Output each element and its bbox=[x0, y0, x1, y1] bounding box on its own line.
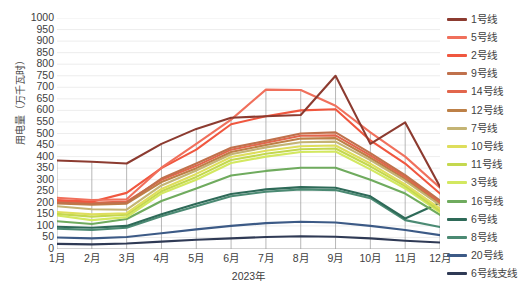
legend-color-swatch bbox=[447, 181, 467, 184]
y-tick-label: 250 bbox=[18, 185, 54, 196]
legend-item-label: 6号线支线 bbox=[471, 268, 517, 279]
legend-item[interactable]: 2号线 bbox=[447, 46, 497, 64]
y-tick-label: 750 bbox=[18, 70, 54, 81]
legend-color-swatch bbox=[447, 109, 467, 112]
y-tick-label: 550 bbox=[18, 116, 54, 127]
y-tick-label: 1000 bbox=[18, 12, 54, 23]
y-tick-label: 500 bbox=[18, 128, 54, 139]
legend-color-swatch bbox=[447, 145, 467, 148]
legend-item[interactable]: 12号线 bbox=[447, 101, 503, 119]
legend-item[interactable]: 6号线 bbox=[447, 210, 497, 228]
y-axis-tick-labels: 1000950900850800750700650600550500450400… bbox=[18, 12, 54, 255]
y-tick-label: 700 bbox=[18, 81, 54, 92]
legend-item-label: 12号线 bbox=[471, 105, 503, 116]
y-tick-label: 900 bbox=[18, 35, 54, 46]
legend-color-swatch bbox=[447, 72, 467, 75]
legend-color-swatch bbox=[447, 218, 467, 221]
legend-item-label: 5号线 bbox=[471, 32, 497, 43]
y-tick-label: 800 bbox=[18, 58, 54, 69]
y-tick-label: 300 bbox=[18, 174, 54, 185]
legend-item[interactable]: 14号线 bbox=[447, 83, 503, 101]
plot-area bbox=[57, 18, 440, 249]
legend-item-label: 10号线 bbox=[471, 141, 503, 152]
legend-item[interactable]: 8号线 bbox=[447, 228, 497, 246]
legend-item[interactable]: 11号线 bbox=[447, 156, 502, 174]
y-tick-label: 950 bbox=[18, 24, 54, 35]
legend: 1号线5号线2号线9号线14号线12号线7号线10号线11号线3号线16号线6号… bbox=[447, 10, 531, 288]
legend-item-label: 20号线 bbox=[471, 250, 503, 261]
legend-item[interactable]: 9号线 bbox=[447, 65, 497, 83]
legend-color-swatch bbox=[447, 54, 467, 57]
legend-item-label: 7号线 bbox=[471, 123, 497, 134]
y-tick-label: 100 bbox=[18, 220, 54, 231]
plot-svg bbox=[57, 18, 440, 249]
series-line bbox=[57, 109, 440, 201]
legend-color-swatch bbox=[447, 36, 467, 39]
y-tick-label: 450 bbox=[18, 139, 54, 150]
y-tick-label: 150 bbox=[18, 208, 54, 219]
legend-color-swatch bbox=[447, 127, 467, 130]
y-tick-label: 350 bbox=[18, 162, 54, 173]
y-tick-label: 50 bbox=[18, 231, 54, 242]
line-chart: 用电量（万千瓦时） 100095090085080075070065060055… bbox=[0, 0, 531, 291]
legend-item-label: 1号线 bbox=[471, 14, 497, 25]
x-axis-title: 2023年 bbox=[57, 268, 440, 283]
series-line bbox=[57, 221, 440, 238]
legend-color-swatch bbox=[447, 272, 467, 275]
y-tick-label: 850 bbox=[18, 47, 54, 58]
legend-item-label: 9号线 bbox=[471, 68, 497, 79]
legend-color-swatch bbox=[447, 163, 467, 166]
legend-color-swatch bbox=[447, 254, 467, 257]
x-axis-tick-labels: 1月2月3月4月5月6月7月8月9月10月11月12月 bbox=[57, 250, 440, 266]
legend-item-label: 14号线 bbox=[471, 86, 503, 97]
legend-color-swatch bbox=[447, 200, 467, 203]
legend-item[interactable]: 5号线 bbox=[447, 28, 497, 46]
y-tick-label: 650 bbox=[18, 93, 54, 104]
legend-item-label: 8号线 bbox=[471, 232, 497, 243]
legend-item-label: 16号线 bbox=[471, 196, 503, 207]
legend-item[interactable]: 20号线 bbox=[447, 247, 503, 265]
legend-item[interactable]: 7号线 bbox=[447, 119, 497, 137]
legend-item[interactable]: 16号线 bbox=[447, 192, 503, 210]
y-tick-label: 200 bbox=[18, 197, 54, 208]
y-tick-label: 600 bbox=[18, 104, 54, 115]
legend-color-swatch bbox=[447, 236, 467, 239]
legend-item-label: 2号线 bbox=[471, 50, 497, 61]
legend-color-swatch bbox=[447, 18, 467, 21]
legend-color-swatch bbox=[447, 90, 467, 93]
legend-item-label: 11号线 bbox=[471, 159, 502, 170]
legend-item-label: 6号线 bbox=[471, 214, 497, 225]
legend-item[interactable]: 6号线支线 bbox=[447, 265, 517, 283]
y-tick-label: 400 bbox=[18, 151, 54, 162]
legend-item[interactable]: 1号线 bbox=[447, 10, 497, 28]
legend-item[interactable]: 10号线 bbox=[447, 137, 503, 155]
legend-item-label: 3号线 bbox=[471, 177, 497, 188]
legend-item[interactable]: 3号线 bbox=[447, 174, 497, 192]
